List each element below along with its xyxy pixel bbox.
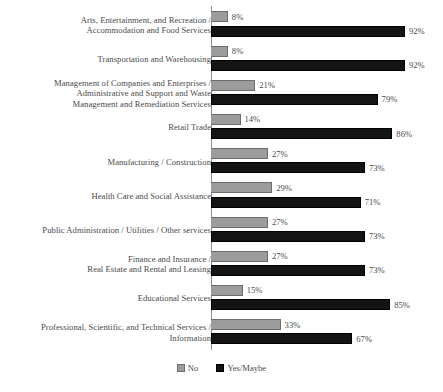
bar-value-label: 71% — [365, 197, 381, 207]
category-label: Retail Trade — [11, 111, 211, 145]
bar-no[interactable] — [211, 148, 268, 159]
bar-yes[interactable] — [211, 94, 378, 105]
bar-yes[interactable] — [211, 197, 361, 208]
bar-no[interactable] — [211, 46, 228, 57]
bar-value-label: 21% — [259, 80, 275, 90]
category-label: Arts, Entertainment, and Recreation / Ac… — [11, 8, 211, 42]
bar-yes[interactable] — [211, 299, 390, 310]
category-group: Retail Trade14%86% — [0, 111, 443, 145]
bar-yes[interactable] — [211, 265, 365, 276]
category-label: Health Care and Social Assistance — [11, 179, 211, 213]
legend-label: Yes/Maybe — [227, 363, 266, 373]
bar-no[interactable] — [211, 285, 243, 296]
bar-no[interactable] — [211, 319, 281, 330]
bar-no[interactable] — [211, 114, 241, 125]
bar-value-label: 8% — [232, 46, 243, 56]
category-group: Manufacturing / Construction27%73% — [0, 145, 443, 179]
category-label: Manufacturing / Construction — [11, 145, 211, 179]
category-group: Public Administration / Utilities / Othe… — [0, 213, 443, 247]
bar-value-label: 85% — [394, 300, 410, 310]
bar-no[interactable] — [211, 11, 228, 22]
bar-value-label: 27% — [272, 251, 288, 261]
bar-no[interactable] — [211, 217, 268, 228]
bar-value-label: 73% — [369, 163, 385, 173]
chart-legend: NoYes/Maybe — [0, 358, 443, 378]
bar-yes[interactable] — [211, 333, 352, 344]
bar-yes[interactable] — [211, 128, 392, 139]
legend-label: No — [188, 363, 199, 373]
bar-value-label: 92% — [409, 26, 425, 36]
bar-value-label: 27% — [272, 149, 288, 159]
bar-value-label: 79% — [382, 94, 398, 104]
bar-value-label: 73% — [369, 265, 385, 275]
category-label: Finance and Insurance / Real Estate and … — [11, 247, 211, 281]
bar-value-label: 8% — [232, 12, 243, 22]
legend-swatch-no-icon — [177, 364, 185, 372]
category-label: Transportation and Warehousing — [11, 42, 211, 76]
bar-value-label: 15% — [247, 285, 263, 295]
category-label: Management of Companies and Enterprises … — [11, 76, 211, 110]
bar-yes[interactable] — [211, 162, 365, 173]
legend-swatch-yes-icon — [216, 364, 224, 372]
bar-no[interactable] — [211, 80, 255, 91]
bar-yes[interactable] — [211, 60, 405, 71]
bar-value-label: 67% — [356, 334, 372, 344]
category-group: Arts, Entertainment, and Recreation / Ac… — [0, 8, 443, 42]
bar-yes[interactable] — [211, 26, 405, 37]
category-group: Professional, Scientific, and Technical … — [0, 316, 443, 350]
category-group: Management of Companies and Enterprises … — [0, 76, 443, 110]
bar-value-label: 14% — [245, 114, 261, 124]
category-label: Educational Services — [11, 282, 211, 316]
bar-no[interactable] — [211, 182, 272, 193]
category-group: Educational Services15%85% — [0, 282, 443, 316]
bar-value-label: 29% — [276, 183, 292, 193]
category-group: Transportation and Warehousing8%92% — [0, 42, 443, 76]
legend-item-yes-maybe[interactable]: Yes/Maybe — [216, 363, 266, 373]
bar-yes[interactable] — [211, 231, 365, 242]
category-label: Professional, Scientific, and Technical … — [11, 316, 211, 350]
bar-value-label: 27% — [272, 217, 288, 227]
bar-no[interactable] — [211, 251, 268, 262]
bar-value-label: 92% — [409, 60, 425, 70]
legend-item-no[interactable]: No — [177, 363, 199, 373]
category-label: Public Administration / Utilities / Othe… — [11, 213, 211, 247]
horizontal-bar-chart: Arts, Entertainment, and Recreation / Ac… — [0, 0, 443, 392]
plot-area: Arts, Entertainment, and Recreation / Ac… — [0, 0, 443, 356]
bar-value-label: 86% — [396, 129, 412, 139]
bar-value-label: 73% — [369, 231, 385, 241]
bar-value-label: 33% — [285, 320, 301, 330]
category-group: Health Care and Social Assistance29%71% — [0, 179, 443, 213]
category-group: Finance and Insurance / Real Estate and … — [0, 247, 443, 281]
